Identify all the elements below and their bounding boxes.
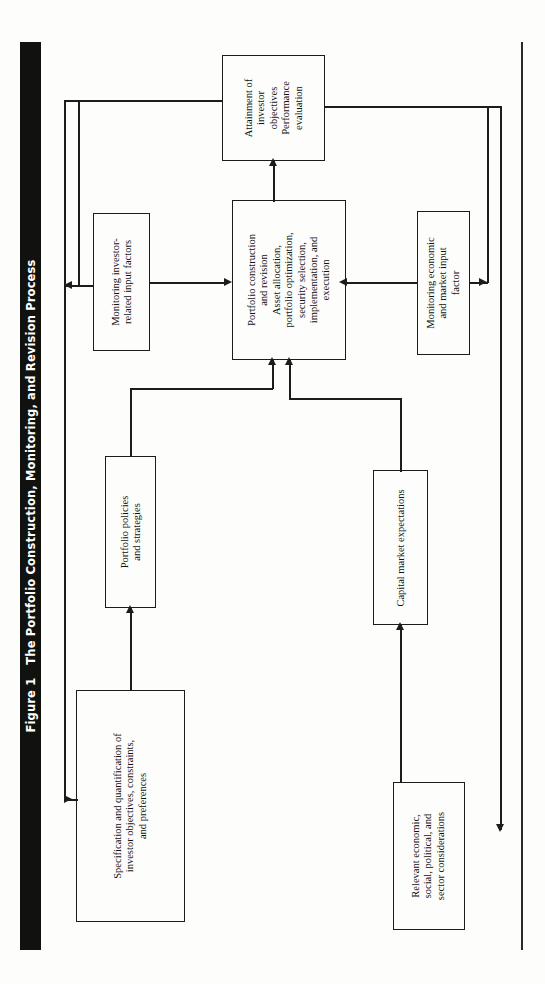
node-portfolio-policies-line-1: Portfolio policies: [118, 496, 130, 569]
node-portfolio-construction-detail-2: portfolio optimization,: [283, 232, 295, 327]
node-portfolio-policies-line-2: and strategies: [131, 496, 143, 569]
node-portfolio-construction[interactable]: Portfolio construction and revision Asse…: [232, 200, 346, 360]
node-specification-line-3: and preferences: [137, 733, 149, 879]
figure-number: Figure 1: [24, 678, 38, 733]
node-specification[interactable]: Specification and quantification of inve…: [76, 690, 185, 922]
connector-monitoring-investor-to-construction: [150, 282, 224, 284]
connector-branch-to-monitoring-economic: [470, 282, 488, 284]
node-portfolio-construction-detail-5: execution: [320, 232, 332, 327]
connector-policies-up: [130, 388, 132, 457]
node-attainment[interactable]: Attainment of investor objectives Perfor…: [222, 55, 325, 161]
node-portfolio-construction-detail-1: Asset allocation,: [270, 232, 282, 327]
connector-policies-across: [130, 388, 273, 390]
node-relevant-economic-text: Relevant economic, social, political, an…: [410, 812, 447, 900]
node-portfolio-policies[interactable]: Portfolio policies and strategies: [105, 456, 156, 608]
connector-attainment-right: [325, 106, 501, 108]
node-attainment-line-3: objectives: [267, 79, 279, 138]
node-attainment-text: Attainment of investor objectives Perfor…: [243, 79, 305, 138]
node-monitoring-investor-line-1: Monitoring investor-: [109, 238, 121, 326]
node-relevant-economic-line-1: Relevant economic,: [410, 812, 422, 900]
node-attainment-line-1: Attainment of: [243, 79, 255, 138]
node-relevant-economic-line-3: sector considerations: [435, 812, 447, 900]
page-edge-rule: [521, 42, 523, 950]
figure-title-text: Figure 1The Portfolio Construction, Moni…: [24, 259, 38, 732]
node-capital-market-text: Capital market expectations: [394, 489, 406, 606]
node-specification-text: Specification and quantification of inve…: [112, 733, 149, 879]
connector-capital-up: [400, 398, 402, 472]
node-portfolio-construction-text: Portfolio construction and revision Asse…: [246, 232, 333, 327]
node-portfolio-construction-line-2: and revision: [258, 232, 270, 327]
connector-right-spine-branch-economic: [487, 106, 489, 283]
node-relevant-economic[interactable]: Relevant economic, social, political, an…: [393, 782, 465, 930]
connector-relevant-to-capital: [400, 625, 402, 783]
node-attainment-line-4: Performance: [280, 79, 292, 138]
node-specification-line-1: Specification and quantification of: [112, 733, 124, 879]
node-portfolio-policies-text: Portfolio policies and strategies: [118, 496, 143, 569]
node-specification-line-2: investor objectives, constraints,: [124, 733, 136, 879]
figure-title-bar: Figure 1The Portfolio Construction, Moni…: [20, 42, 41, 950]
arrowhead-monitoring-investor-to-construction: [224, 278, 232, 286]
connector-monitoring-investor-tap: [78, 100, 80, 286]
node-attainment-line-5: evaluation: [292, 79, 304, 138]
node-monitoring-economic[interactable]: Monitoring economic and market input fac…: [417, 211, 470, 355]
connector-left-spine-vertical: [64, 100, 66, 800]
node-capital-market[interactable]: Capital market expectations: [373, 470, 428, 625]
node-monitoring-investor[interactable]: Monitoring investor- related input facto…: [93, 213, 150, 351]
node-monitoring-investor-line-2: related input factors: [122, 238, 134, 326]
node-monitoring-economic-line-3: factor: [450, 237, 462, 328]
arrowhead-right-spine-into-relevant: [496, 824, 504, 832]
connector-right-spine-vertical: [500, 106, 502, 830]
figure-page: Figure 1The Portfolio Construction, Moni…: [0, 0, 545, 984]
node-capital-market-line-1: Capital market expectations: [394, 489, 406, 606]
node-monitoring-economic-line-2: and market input: [437, 237, 449, 328]
connector-specification-to-policies-v: [130, 608, 132, 690]
connector-left-spine-top: [64, 100, 222, 102]
node-portfolio-construction-line-1: Portfolio construction: [246, 232, 258, 327]
connector-capital-to-construction: [289, 360, 291, 399]
node-portfolio-construction-detail-3: security selection,: [295, 232, 307, 327]
connector-capital-across: [289, 398, 401, 400]
connector-construction-to-attainment: [273, 160, 275, 202]
node-monitoring-economic-text: Monitoring economic and market input fac…: [425, 237, 462, 328]
node-relevant-economic-line-2: social, political, and: [423, 812, 435, 900]
node-attainment-line-2: investor: [255, 79, 267, 138]
node-portfolio-construction-detail-4: implementation, and: [308, 232, 320, 327]
connector-monitoring-economic-to-construction: [346, 282, 417, 284]
figure-title: The Portfolio Construction, Monitoring, …: [24, 259, 38, 664]
node-monitoring-investor-text: Monitoring investor- related input facto…: [109, 238, 134, 326]
node-monitoring-economic-line-1: Monitoring economic: [425, 237, 437, 328]
